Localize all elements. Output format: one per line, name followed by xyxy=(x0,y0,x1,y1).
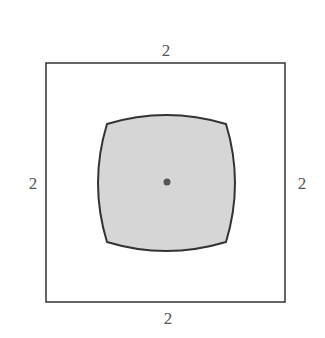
label-right: 2 xyxy=(298,174,307,193)
label-bottom: 2 xyxy=(164,309,173,328)
label-left: 2 xyxy=(29,174,38,193)
label-top: 2 xyxy=(162,41,171,60)
diagram-canvas: 2 2 2 2 xyxy=(0,0,325,338)
center-point xyxy=(164,179,171,186)
